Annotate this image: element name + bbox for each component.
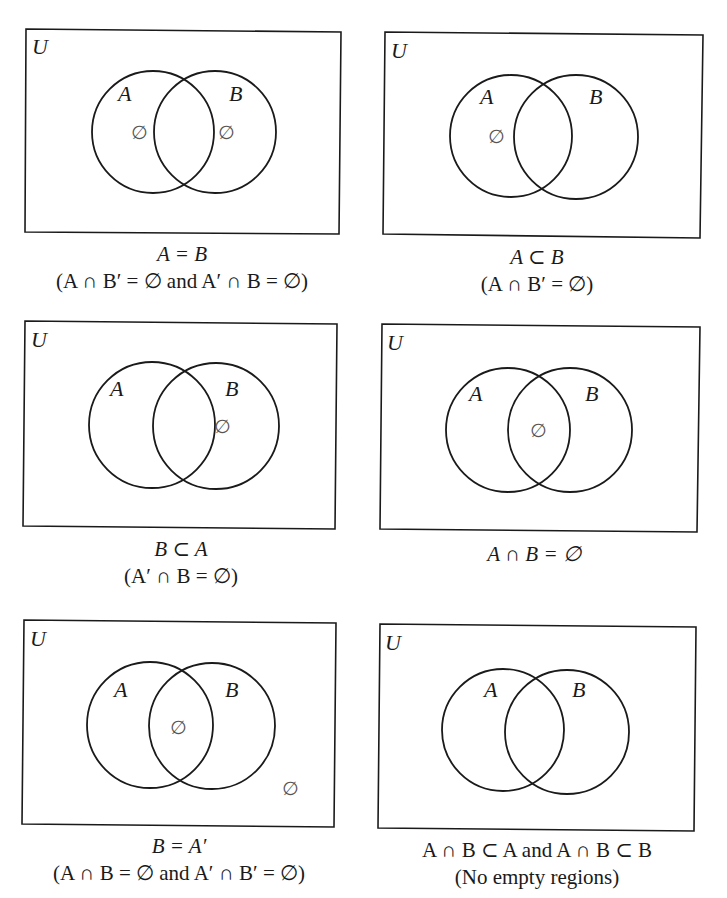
caption-line-2: (No empty regions): [364, 864, 710, 891]
universe-label: U: [391, 38, 409, 63]
set-b-circle: [505, 670, 629, 794]
caption-line-1: A ∩ B = ∅: [364, 541, 704, 568]
set-a-label: A: [482, 677, 498, 702]
panel-b-subset-a: U A B ∅: [23, 321, 337, 529]
set-b-label: B: [225, 376, 238, 401]
panel-disjoint: U A B ∅: [380, 324, 700, 532]
set-b-label: B: [585, 381, 598, 406]
caption-line-1: A = B: [0, 241, 364, 268]
set-b-circle: [514, 75, 638, 199]
caption-b-subset-a: B ⊂ A (A′ ∩ B = ∅): [0, 536, 362, 590]
universe-label: U: [385, 630, 403, 655]
caption-line-2: (A ∩ B′ = ∅): [364, 271, 710, 298]
set-a-label: A: [116, 81, 132, 106]
caption-b-equals-a-complement: B = A′ (A ∩ B = ∅ and A′ ∩ B′ = ∅): [0, 833, 358, 887]
panel-a-subset-b: U A B ∅: [383, 32, 703, 238]
panel-b-equals-a-complement: U A B ∅ ∅: [22, 620, 336, 827]
set-b-label: B: [229, 81, 242, 106]
set-b-circle: [149, 663, 275, 789]
caption-line-2: (A ∩ B = ∅ and A′ ∩ B′ = ∅): [0, 860, 358, 887]
universe-box: [25, 29, 341, 234]
empty-set-icon: ∅: [282, 777, 299, 799]
caption-no-empty-regions: A ∩ B ⊂ A and A ∩ B ⊂ B (No empty region…: [364, 837, 710, 891]
set-a-label: A: [467, 381, 483, 406]
empty-set-icon: ∅: [488, 125, 505, 147]
set-a-label: A: [478, 84, 494, 109]
universe-label: U: [31, 327, 49, 352]
caption-line-1: A ⊂ B: [364, 244, 710, 271]
universe-label: U: [30, 626, 48, 651]
caption-line-2: (A ∩ B′ = ∅ and A′ ∩ B = ∅): [0, 268, 364, 295]
caption-a-equals-b: A = B (A ∩ B′ = ∅ and A′ ∩ B = ∅): [0, 241, 364, 295]
empty-set-icon: ∅: [131, 121, 148, 143]
caption-line-1: B ⊂ A: [0, 536, 362, 563]
set-a-circle: [450, 75, 572, 197]
empty-set-icon: ∅: [170, 716, 187, 738]
universe-box: [378, 624, 696, 831]
set-a-circle: [92, 71, 214, 193]
set-a-circle: [442, 669, 564, 791]
set-b-label: B: [589, 84, 602, 109]
caption-a-subset-b: A ⊂ B (A ∩ B′ = ∅): [364, 244, 710, 298]
caption-line-1: A ∩ B ⊂ A and A ∩ B ⊂ B: [364, 837, 710, 864]
set-a-label: A: [108, 376, 124, 401]
set-b-label: B: [225, 677, 238, 702]
caption-line-1: B = A′: [0, 833, 358, 860]
set-a-circle: [87, 662, 213, 788]
caption-disjoint: A ∩ B = ∅: [364, 541, 704, 568]
empty-set-icon: ∅: [530, 419, 547, 441]
panel-no-empty-regions: U A B: [378, 624, 696, 831]
empty-set-icon: ∅: [214, 415, 231, 437]
set-b-label: B: [572, 677, 585, 702]
universe-label: U: [32, 34, 50, 59]
universe-box: [23, 321, 337, 529]
universe-box: [383, 32, 703, 238]
caption-line-2: (A′ ∩ B = ∅): [0, 563, 362, 590]
set-a-label: A: [112, 677, 128, 702]
panel-a-equals-b: U A B ∅ ∅: [25, 29, 341, 234]
universe-label: U: [387, 330, 405, 355]
empty-set-icon: ∅: [218, 121, 235, 143]
venn-diagram-figure: U A B ∅ ∅ U A B ∅ U A B ∅ U A B ∅: [0, 0, 727, 898]
set-a-circle: [89, 362, 215, 488]
set-b-circle: [154, 71, 276, 193]
